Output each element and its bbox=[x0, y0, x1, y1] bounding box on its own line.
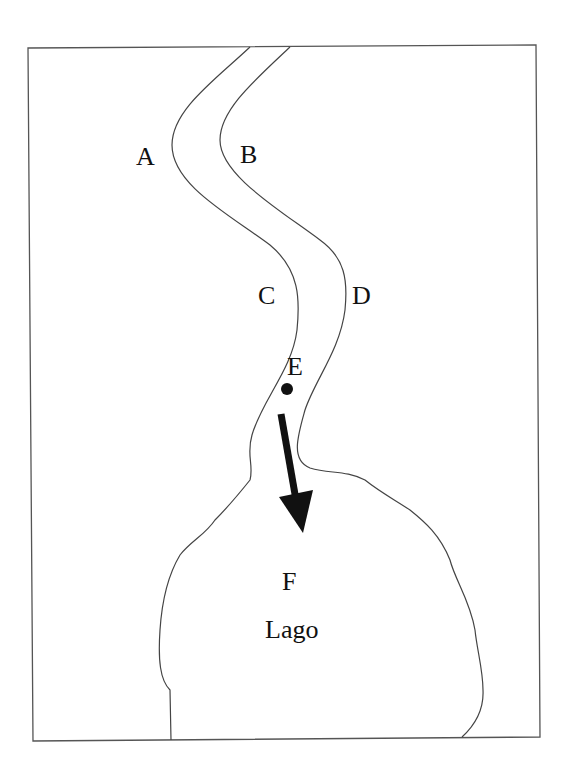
river-lake-diagram: A B C D E F Lago bbox=[0, 0, 569, 774]
point-e-dot bbox=[281, 383, 293, 395]
river-right-bank bbox=[220, 47, 483, 737]
lake-label: Lago bbox=[265, 615, 318, 644]
label-c: C bbox=[258, 281, 275, 310]
flow-arrow-icon bbox=[279, 414, 313, 533]
label-a: A bbox=[136, 142, 155, 171]
label-d: D bbox=[352, 281, 371, 310]
label-b: B bbox=[240, 140, 257, 169]
label-f: F bbox=[282, 567, 296, 596]
label-e: E bbox=[287, 352, 303, 381]
